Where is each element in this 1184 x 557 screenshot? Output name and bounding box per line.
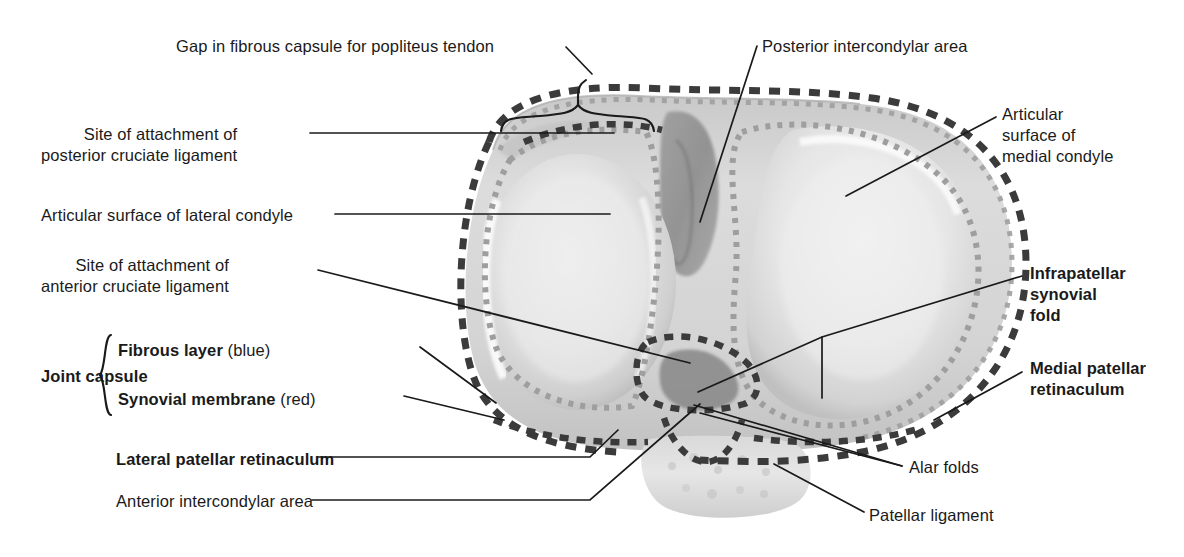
label-articular-medial-line2: surface of: [1002, 125, 1113, 146]
label-pcl-attachment: Site of attachment of posterior cruciate…: [41, 124, 237, 166]
label-infrapatellar-line1: Infrapatellar: [1030, 263, 1126, 284]
label-posterior-intercondylar: Posterior intercondylar area: [762, 36, 967, 57]
label-acl-line1: Site of attachment of: [41, 255, 229, 276]
label-pcl-line1: Site of attachment of: [41, 124, 237, 145]
label-infrapatellar-synovial-fold: Infrapatellar synovial fold: [1030, 263, 1126, 326]
label-patellar-ligament: Patellar ligament: [869, 505, 994, 526]
label-anterior-intercondylar: Anterior intercondylar area: [116, 491, 313, 512]
medial-condyle-center-sheen: [780, 156, 944, 380]
label-fibrous-layer-term: Fibrous layer: [118, 341, 223, 359]
label-articular-lateral-condyle: Articular surface of lateral condyle: [41, 205, 293, 226]
label-articular-medial-line3: medial condyle: [1002, 146, 1113, 167]
label-gap-popliteus: Gap in fibrous capsule for popliteus ten…: [176, 36, 494, 57]
label-joint-capsule: Joint capsule: [41, 366, 148, 387]
label-alar-folds: Alar folds: [909, 457, 979, 478]
label-medial-retinaculum-line1: Medial patellar: [1030, 358, 1146, 379]
label-fibrous-layer-note: (blue): [228, 341, 271, 359]
leader-gap-popliteus: [566, 47, 592, 74]
label-medial-retinaculum-line2: retinaculum: [1030, 379, 1146, 400]
label-acl-line2: anterior cruciate ligament: [41, 276, 229, 297]
label-acl-attachment: Site of attachment of anterior cruciate …: [41, 255, 229, 297]
label-articular-medial-line1: Articular: [1002, 104, 1113, 125]
label-infrapatellar-line3: fold: [1030, 305, 1126, 326]
label-infrapatellar-line2: synovial: [1030, 284, 1126, 305]
label-pcl-line2: posterior cruciate ligament: [41, 145, 237, 166]
label-synovial-membrane-term: Synovial membrane: [118, 390, 276, 408]
label-lateral-patellar-retinaculum: Lateral patellar retinaculum: [116, 449, 334, 470]
lateral-condyle-center-sheen: [502, 174, 650, 382]
label-medial-patellar-retinaculum: Medial patellar retinaculum: [1030, 358, 1146, 400]
label-synovial-membrane-note: (red): [280, 390, 315, 408]
label-synovial-membrane: Synovial membrane (red): [118, 389, 316, 410]
label-fibrous-layer: Fibrous layer (blue): [118, 340, 270, 361]
tibial-plateau-specimen: [465, 95, 1012, 518]
joint-capsule-brace: [97, 333, 113, 417]
label-articular-medial-condyle: Articular surface of medial condyle: [1002, 104, 1113, 167]
